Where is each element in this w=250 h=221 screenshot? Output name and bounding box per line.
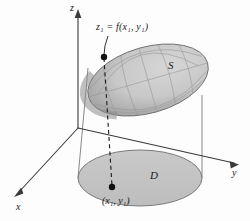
label-domain-D: D [150,170,158,181]
label-x-text: x [16,201,20,212]
figure-canvas [0,0,250,221]
label-domain-point: (x₁, y₁) [102,196,130,206]
label-axis-z: z [70,3,74,13]
domain-region-D [78,150,202,206]
label-axis-x: x [16,202,20,212]
label-equation-text: z₁ = f(x₁, y₁) [96,21,148,32]
domain-point-dot [109,184,115,190]
domain-ellipse [78,150,202,206]
x-axis [19,128,78,192]
label-point-text: (x₁, y₁) [102,195,130,206]
surface-S [78,30,217,130]
label-y-text: y [232,167,236,178]
label-z-text: z [70,2,74,13]
leader-line [104,36,108,55]
z-axis-arrowhead [75,9,82,18]
label-axis-y: y [232,168,236,178]
label-z1-equals-f: z₁ = f(x₁, y₁) [96,22,148,32]
label-surface-text: S [168,59,174,71]
label-domain-text: D [150,169,158,181]
surface-point-dot [101,54,107,60]
label-surface-S: S [168,60,174,71]
